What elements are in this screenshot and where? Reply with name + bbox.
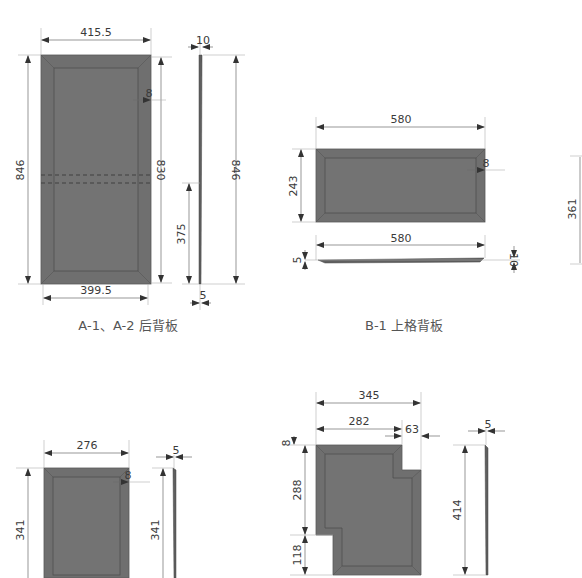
part-a-front-view: 415.5 399.5 846 830 8	[14, 26, 172, 305]
part-b-edge-view: 580 5 10	[291, 232, 520, 273]
dim-a-side-bottom-thickness: 5	[200, 289, 207, 302]
dim-d-lower-notch-height: 118	[291, 545, 304, 566]
dim-b-height: 243	[287, 176, 300, 197]
part-c-inner-field	[53, 477, 120, 575]
dim-c-side-height: 341	[149, 520, 162, 541]
part-d-front-view: 345 282 63 8 288 118	[280, 389, 440, 575]
dim-b-bevel: 8	[483, 157, 490, 170]
dim-a-inner-height: 830	[154, 160, 167, 181]
dim-c-bevel: 8	[125, 469, 132, 482]
dim-a-height: 846	[14, 160, 27, 181]
dim-b-width: 580	[391, 113, 412, 126]
dim-b-edge-right-thickness: 10	[507, 253, 520, 267]
dim-a-side-height: 846	[229, 160, 242, 181]
dim-a-top-width: 415.5	[80, 26, 112, 39]
dim-c-height: 341	[14, 520, 27, 541]
dim-d-side-thickness: 5	[485, 418, 492, 431]
dim-a-bottom-width: 399.5	[80, 284, 112, 297]
dim-a-bevel: 8	[146, 87, 153, 100]
part-a-inner-field	[54, 68, 138, 271]
part-b-inner-field	[325, 158, 476, 213]
dim-b-edge-left-thickness: 5	[291, 257, 304, 264]
dim-d-top-offset: 8	[280, 440, 293, 447]
part-b-edge-profile	[318, 258, 484, 263]
dim-d-upper-height: 288	[291, 480, 304, 501]
dim-d-total-width: 345	[359, 389, 380, 402]
part-d-side-profile	[485, 445, 488, 575]
technical-drawing: 415.5 399.5 846 830 8 10 846	[0, 0, 582, 578]
part-c-side-profile	[173, 468, 176, 578]
dim-d-upper-width: 282	[349, 415, 370, 428]
part-c-side-view: 5 341	[149, 444, 192, 578]
dim-c-side-thickness: 5	[173, 444, 180, 457]
part-d-side-view: 5 414	[451, 418, 505, 575]
part-a-side-profile	[199, 55, 202, 284]
dim-d-side-height: 414	[451, 500, 464, 521]
part-c-front-view: 276 341 8	[14, 439, 150, 578]
dim-a-side-lower-height: 375	[175, 224, 188, 245]
dim-partial-361: 361	[566, 199, 579, 220]
dim-c-width: 276	[77, 439, 98, 452]
dim-b-edge-width: 580	[391, 232, 412, 245]
part-partial-dimension: 361	[566, 156, 582, 264]
dim-a-side-top-thickness: 10	[196, 34, 210, 47]
dim-d-notch-width: 63	[405, 423, 419, 436]
caption-part-a: A-1、A-2 后背板	[78, 318, 177, 333]
caption-part-b: B-1 上格背板	[365, 318, 443, 333]
part-b-front-view: 580 243 8	[287, 113, 505, 222]
part-a-side-view: 10 846 375 5	[175, 34, 245, 310]
